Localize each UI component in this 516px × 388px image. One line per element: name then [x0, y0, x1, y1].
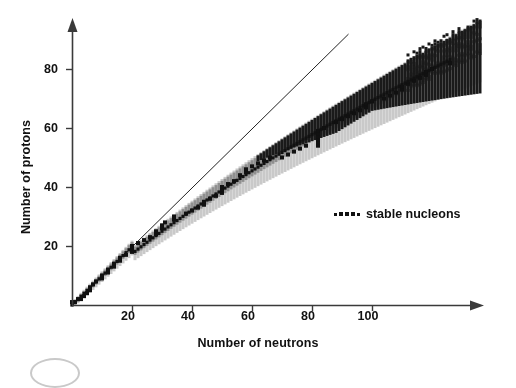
x-axis-title: Number of neutrons	[0, 336, 516, 350]
page-corner-circle-mark	[30, 358, 80, 388]
y-tick-label-40: 40	[24, 180, 58, 194]
legend-stable-marker-icon	[334, 209, 360, 219]
legend: stable nucleons	[334, 205, 460, 223]
y-tick-label-60: 60	[24, 121, 58, 135]
x-tick-label-100: 100	[348, 309, 388, 323]
x-tick-label-80: 80	[288, 309, 328, 323]
y-tick-label-20: 20	[24, 239, 58, 253]
y-tick-label-80: 80	[24, 62, 58, 76]
legend-label: stable nucleons	[366, 207, 460, 221]
x-tick-label-40: 40	[168, 309, 208, 323]
x-tick-label-20: 20	[108, 309, 148, 323]
x-tick-label-60: 60	[228, 309, 268, 323]
